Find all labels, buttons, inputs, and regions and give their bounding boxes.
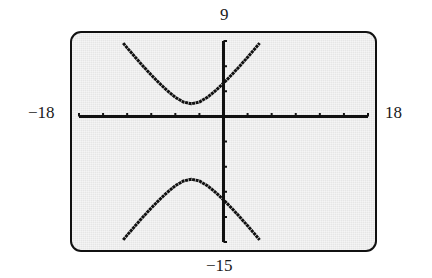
ymax-label: 9: [220, 6, 229, 23]
xmin-label: −18: [28, 104, 55, 121]
xmax-label: 18: [385, 104, 402, 121]
graph-plot: [72, 33, 375, 250]
lower-branch: [123, 179, 259, 240]
ymin-label: −15: [206, 257, 233, 274]
calculator-screen: [70, 31, 377, 252]
axes: [79, 41, 368, 242]
hyperbola-curves: [123, 43, 259, 240]
upper-branch: [123, 43, 259, 104]
